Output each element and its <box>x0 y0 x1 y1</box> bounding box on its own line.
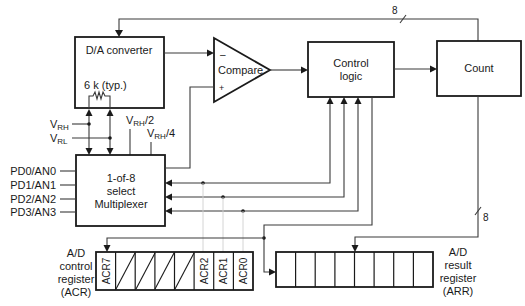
acr-label-line2: control <box>59 260 92 272</box>
control-label-line2: logic <box>340 70 363 82</box>
dac-block: D/A converter 6 k (typ.) <box>75 37 164 108</box>
compare-to-control <box>270 67 308 74</box>
analog-inputs: PD0/AN0 PD1/AN1 PD2/AN2 PD3/AN3 <box>10 165 76 218</box>
input-pd2: PD2/AN2 <box>10 193 56 205</box>
dac-label: D/A converter <box>86 44 153 56</box>
acr-register: ACR7 ACR2 ACR1 ACR0 A/D control register… <box>58 247 253 298</box>
result-bus-width: 8 <box>483 212 489 223</box>
mux-label-line1: 1-of-8 <box>107 172 136 184</box>
top-bus: 8 <box>115 5 478 41</box>
dac-to-compare <box>164 50 214 57</box>
input-pd0: PD0/AN0 <box>10 165 56 177</box>
acr-label-line1: A/D <box>67 247 85 259</box>
comparator-block: – + Compare <box>214 38 270 102</box>
count-block: Count <box>437 41 521 96</box>
control-label-line1: Control <box>333 57 368 69</box>
diagram-svg: 8 D/A converter 6 k (typ.) – + Compare C… <box>0 0 525 306</box>
compare-label: Compare <box>218 64 263 76</box>
input-pd1: PD1/AN1 <box>10 179 56 191</box>
acr-label-line4: (ACR) <box>61 286 92 298</box>
arr-label-line3: register <box>440 272 477 284</box>
acr-bit-2: ACR2 <box>199 257 210 284</box>
acr-bit-1: ACR1 <box>218 257 229 284</box>
acr-label-line3: register <box>58 273 95 285</box>
mux-block: 1-of-8 select Multiplexer <box>76 155 165 226</box>
plus-sign: + <box>219 83 224 93</box>
top-bus-width: 8 <box>392 5 398 16</box>
control-to-count <box>394 66 437 73</box>
mux-label-line3: Multiplexer <box>94 198 148 210</box>
mux-label-line2: select <box>107 185 136 197</box>
vrh-label: VRH <box>50 118 69 132</box>
acr-bit-0: ACR0 <box>238 257 249 284</box>
vrh-quarter-label: VRH/4 <box>147 127 175 141</box>
arr-label-line1: A/D <box>449 246 467 258</box>
resistor-label: 6 k (typ.) <box>84 79 127 91</box>
adc-block-diagram: 8 D/A converter 6 k (typ.) – + Compare C… <box>0 0 525 306</box>
arr-register: A/D result register (ARR) <box>276 246 477 297</box>
reference-voltages: VRH VRL VRH/2 VRH/4 <box>50 109 175 155</box>
input-pd3: PD3/AN3 <box>10 206 56 218</box>
minus-sign: – <box>220 49 226 60</box>
vrl-label: VRL <box>50 132 68 146</box>
acr-bit-7: ACR7 <box>101 257 112 284</box>
arr-label-line4: (ARR) <box>443 285 474 297</box>
count-label: Count <box>464 62 493 74</box>
control-logic-block: Control logic <box>308 42 394 97</box>
arr-label-line2: result <box>445 259 472 271</box>
vrh-half-label: VRH/2 <box>126 114 154 128</box>
